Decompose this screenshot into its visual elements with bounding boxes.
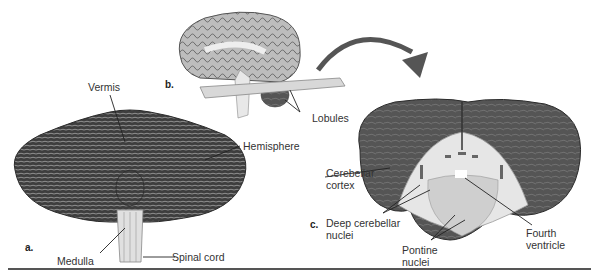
- label-pontine-nuclei-line1: Pontine: [402, 245, 438, 256]
- curved-arrow: [318, 40, 428, 78]
- panel-letter-c: c.: [310, 219, 318, 230]
- label-fourth-ventricle-line2: ventricle: [526, 240, 565, 251]
- label-pontine-nuclei-line2: nuclei: [402, 257, 429, 268]
- panel-letter-b: b.: [165, 79, 174, 90]
- label-cerebellar-cortex-line2: cortex: [326, 180, 355, 191]
- cerebellum-posterior: [14, 110, 246, 262]
- label-fourth-ventricle-line1: Fourth: [526, 228, 556, 239]
- panel-letter-a: a.: [25, 242, 33, 253]
- label-medulla: Medulla: [57, 256, 94, 267]
- label-hemisphere: Hemisphere: [243, 141, 300, 152]
- label-cerebellar-cortex-line1: Cerebellar: [326, 168, 374, 179]
- label-spinal-cord: Spinal cord: [172, 252, 225, 263]
- label-lobules: Lobules: [312, 113, 349, 124]
- caption-divider: [8, 268, 591, 270]
- label-deep-cerebellar-nuclei-line2: nuclei: [326, 230, 353, 241]
- label-deep-cerebellar-nuclei-line1: Deep cerebellar: [326, 218, 400, 229]
- label-vermis: Vermis: [88, 82, 120, 93]
